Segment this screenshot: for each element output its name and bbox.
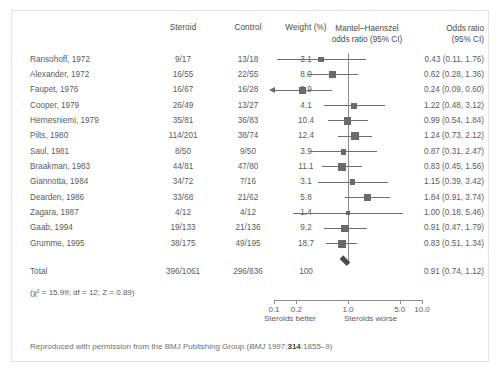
study-name: Pilts, 1980 (30, 128, 160, 143)
heterogeneity-statistics: (χ² = 15.99; df = 12; Z = 0.89) (30, 288, 134, 297)
header-odds-ratio: Odds ratio (95% CI) (404, 23, 484, 45)
header-steroid: Steroid (152, 23, 214, 32)
axis-tick-label: 5.0 (394, 305, 405, 314)
steroid-events: 33/68 (152, 190, 214, 205)
axis-tick (422, 300, 423, 304)
study-name: Dearden, 1986 (30, 190, 160, 205)
steroid-events: 8/50 (152, 144, 214, 159)
control-events: 4/12 (217, 205, 279, 220)
axis-tick-label: 0.2 (291, 305, 302, 314)
control-events: 38/74 (217, 128, 279, 143)
effect-marker (341, 225, 348, 232)
steroid-events: 16/67 (152, 82, 214, 97)
total-steroid: 396/1061 (152, 264, 214, 279)
study-name: Faupet, 1976 (30, 82, 160, 97)
axis-tick (274, 300, 275, 304)
axis-tick-label: 1.0 (342, 305, 353, 314)
header-or-line2: (95% CI) (404, 34, 484, 45)
axis-tick (400, 300, 401, 304)
header-plot-line2: odds ratio (95% CI) (330, 34, 404, 45)
axis-caption-better: Steroids better (264, 314, 316, 323)
effect-marker (338, 240, 346, 248)
effect-marker (329, 71, 336, 78)
effect-marker (344, 117, 351, 124)
steroid-events: 19/133 (152, 220, 214, 235)
total-control: 296/836 (217, 264, 279, 279)
study-name: Saul, 1981 (30, 144, 160, 159)
effect-marker (351, 103, 357, 109)
effect-marker (341, 149, 347, 155)
control-events: 22/55 (217, 67, 279, 82)
effect-marker (338, 163, 345, 170)
effect-marker (350, 179, 356, 185)
control-events: 36/83 (217, 113, 279, 128)
study-name: Cooper, 1979 (30, 98, 160, 113)
axis-tick-label: 10.0 (414, 305, 430, 314)
plot-area (274, 49, 422, 301)
axis-tick (296, 300, 297, 304)
steroid-events: 4/12 (152, 205, 214, 220)
control-events: 7/16 (217, 174, 279, 189)
steroid-events: 44/81 (152, 159, 214, 174)
effect-marker (346, 211, 351, 216)
steroid-events: 114/201 (152, 128, 214, 143)
study-name: Braakman, 1983 (30, 159, 160, 174)
axis-caption-worse: Steroids worse (344, 314, 397, 323)
steroid-events: 34/72 (152, 174, 214, 189)
study-name: Ransohoff, 1972 (30, 52, 160, 67)
footer-prefix: Reproduced with permission from the BMJ … (30, 342, 249, 351)
steroid-events: 26/49 (152, 98, 214, 113)
total-label: Total (30, 264, 160, 279)
header-plot: Mantel–Haenszel odds ratio (95% CI) (330, 23, 404, 45)
footer-suffix: :1855–9) (301, 342, 333, 351)
study-name: Alexander, 1972 (30, 67, 160, 82)
control-events: 9/50 (217, 144, 279, 159)
study-name: Grumme, 1995 (30, 236, 160, 251)
study-name: Zagara, 1987 (30, 205, 160, 220)
effect-marker (318, 57, 324, 63)
header-weight: Weight (%) (280, 23, 332, 32)
control-events: 13/27 (217, 98, 279, 113)
study-name: Giannotta, 1984 (30, 174, 160, 189)
header-plot-line1: Mantel–Haenszel (330, 23, 404, 34)
study-name: Hernesniemi, 1979 (30, 113, 160, 128)
steroid-events: 9/17 (152, 52, 214, 67)
steroid-events: 38/175 (152, 236, 214, 251)
source-credit: Reproduced with permission from the BMJ … (30, 342, 332, 351)
footer-journal: BMJ (249, 342, 265, 351)
effect-marker (351, 132, 359, 140)
header-or-line1: Odds ratio (404, 23, 484, 34)
forest-plot-figure: Steroid Control Weight (%) Mantel–Haensz… (11, 10, 489, 362)
footer-mid: 1997; (265, 342, 287, 351)
steroid-events: 35/81 (152, 113, 214, 128)
control-events: 21/136 (217, 220, 279, 235)
control-events: 13/18 (217, 52, 279, 67)
control-events: 47/80 (217, 159, 279, 174)
axis-tick (348, 300, 349, 304)
study-name: Gaab, 1994 (30, 220, 160, 235)
control-events: 49/195 (217, 236, 279, 251)
header-control: Control (217, 23, 279, 32)
axis-tick-label: 0.1 (268, 305, 279, 314)
steroid-events: 16/55 (152, 67, 214, 82)
control-events: 21/62 (217, 190, 279, 205)
effect-marker (364, 194, 370, 200)
ci-clip-arrow-icon (269, 87, 275, 93)
effect-marker (299, 87, 306, 94)
footer-volume: 314 (287, 342, 300, 351)
